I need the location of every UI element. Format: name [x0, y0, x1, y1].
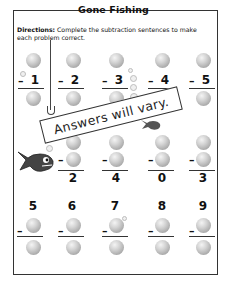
- minus-sign: –: [102, 156, 108, 166]
- equals-bar: [18, 88, 44, 89]
- bubble-icon: [128, 68, 133, 73]
- difference-bubble-input[interactable]: [66, 240, 81, 255]
- directions: Directions: Complete the subtraction sen…: [17, 26, 212, 42]
- minus-sign: –: [148, 156, 154, 166]
- subtrahend-bubble-input[interactable]: [109, 152, 124, 167]
- minuend-value: 9: [193, 200, 213, 212]
- minuend-value: 5: [23, 200, 43, 212]
- minus-sign: –: [189, 156, 195, 166]
- fishing-line-icon: [50, 40, 51, 110]
- subtrahend-bubble-input[interactable]: [155, 218, 170, 233]
- subtrahend-bubble-input[interactable]: [109, 218, 124, 233]
- equals-bar: [189, 88, 215, 89]
- subtrahend-bubble-input[interactable]: [196, 218, 211, 233]
- bubble-icon: [122, 216, 127, 221]
- subtrahend-bubble-input[interactable]: [26, 218, 41, 233]
- difference-bubble-input[interactable]: [109, 240, 124, 255]
- minuend-bubble-input[interactable]: [26, 53, 41, 68]
- directions-label: Directions:: [17, 26, 55, 33]
- minuend-bubble-input[interactable]: [196, 135, 211, 150]
- equals-bar: [189, 236, 215, 237]
- fish-icon: [16, 148, 56, 178]
- equals-bar: [17, 236, 43, 237]
- difference-value: 0: [152, 172, 172, 184]
- difference-bubble-input[interactable]: [26, 240, 41, 255]
- subtrahend-bubble-input[interactable]: [66, 218, 81, 233]
- minus-sign: –: [58, 156, 64, 166]
- minus-sign: –: [189, 77, 195, 87]
- difference-value: 4: [106, 172, 126, 184]
- equals-bar: [102, 236, 128, 237]
- bubble-icon: [46, 145, 53, 152]
- subtrahend-bubble-input[interactable]: [155, 152, 170, 167]
- difference-value: 2: [63, 172, 83, 184]
- subtrahend-bubble-input[interactable]: [196, 152, 211, 167]
- subtrahend-bubble-input[interactable]: [66, 152, 81, 167]
- difference-bubble-input[interactable]: [66, 91, 81, 106]
- minuend-bubble-input[interactable]: [155, 135, 170, 150]
- minus-sign: –: [148, 77, 154, 87]
- minuend-bubble-input[interactable]: [66, 53, 81, 68]
- equals-bar: [148, 236, 174, 237]
- minuend-value: 8: [152, 200, 172, 212]
- subtrahend-value: 5: [196, 74, 216, 86]
- equals-bar: [102, 88, 128, 89]
- minuend-value: 6: [62, 200, 82, 212]
- fish-icon: [140, 118, 162, 132]
- page-title: Gone Fishing: [0, 4, 227, 15]
- subtrahend-value: 3: [109, 74, 129, 86]
- subtrahend-value: 1: [25, 74, 45, 86]
- difference-bubble-input[interactable]: [155, 240, 170, 255]
- equals-bar: [58, 88, 84, 89]
- minus-sign: –: [58, 77, 64, 87]
- minus-sign: –: [102, 77, 108, 87]
- subtrahend-value: 4: [155, 74, 175, 86]
- hook-icon: [47, 106, 55, 115]
- minuend-bubble-input[interactable]: [109, 135, 124, 150]
- equals-bar: [58, 236, 84, 237]
- bubble-icon: [130, 84, 137, 91]
- bubble-icon: [130, 75, 137, 82]
- subtrahend-value: 2: [65, 74, 85, 86]
- difference-bubble-input[interactable]: [196, 91, 211, 106]
- minuend-value: 7: [105, 200, 125, 212]
- minuend-bubble-input[interactable]: [109, 53, 124, 68]
- difference-value: 3: [193, 172, 213, 184]
- minuend-bubble-input[interactable]: [155, 53, 170, 68]
- minuend-bubble-input[interactable]: [196, 53, 211, 68]
- minus-sign: –: [18, 77, 24, 87]
- difference-bubble-input[interactable]: [196, 240, 211, 255]
- difference-bubble-input[interactable]: [26, 91, 41, 106]
